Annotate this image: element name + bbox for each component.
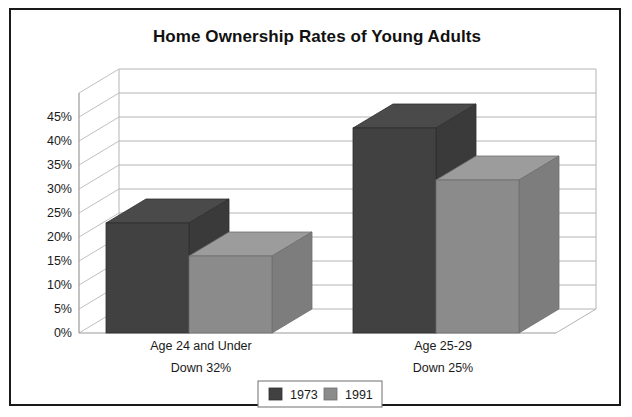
y-tick-4: 20% [47, 230, 72, 244]
y-tick-0: 0% [54, 326, 72, 340]
y-axis-labels: 0% 5% 10% 15% 20% 25% 30% 35% 40% 45% [47, 110, 72, 340]
category-sublabel-1: Down 25% [413, 361, 473, 375]
category-label-0: Age 24 and Under [150, 339, 251, 353]
chart-frame: Home Ownership Rates of Young Adults [9, 8, 621, 406]
bar-1991-age-24-and-under[interactable] [189, 232, 312, 333]
y-tick-8: 40% [47, 134, 72, 148]
x-axis-labels: Age 24 and Under Down 32% Age 25-29 Down… [150, 339, 473, 375]
category-sublabel-0: Down 32% [171, 361, 231, 375]
legend-label-1991: 1991 [345, 388, 373, 402]
y-tick-2: 10% [47, 278, 72, 292]
category-label-1: Age 25-29 [414, 339, 472, 353]
legend-swatch-1973[interactable] [269, 388, 282, 400]
y-tick-7: 35% [47, 158, 72, 172]
y-tick-1: 5% [54, 302, 72, 316]
legend-label-1973: 1973 [290, 388, 318, 402]
bar-1991-age-25-29[interactable] [436, 156, 559, 333]
y-tick-6: 30% [47, 182, 72, 196]
y-tick-5: 25% [47, 206, 72, 220]
chart-legend: 1973 1991 [258, 381, 382, 407]
legend-swatch-1991[interactable] [324, 388, 337, 400]
chart-plot-area: 0% 5% 10% 15% 20% 25% 30% 35% 40% 45% [11, 10, 623, 408]
y-tick-9: 45% [47, 110, 72, 124]
y-tick-3: 15% [47, 254, 72, 268]
bar-group-age-25-29 [353, 104, 559, 333]
bar-group-age-24-and-under [106, 199, 312, 333]
chart-page: Home Ownership Rates of Young Adults [0, 0, 632, 417]
